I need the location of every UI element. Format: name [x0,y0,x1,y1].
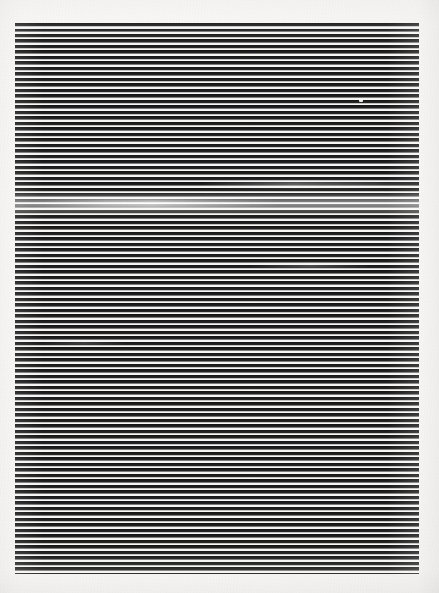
artwork-canvas: Horizontal Line Field ink lines on off-w… [0,0,439,593]
horizontal-stripe-field [15,23,419,574]
stripe-pattern [15,23,419,574]
